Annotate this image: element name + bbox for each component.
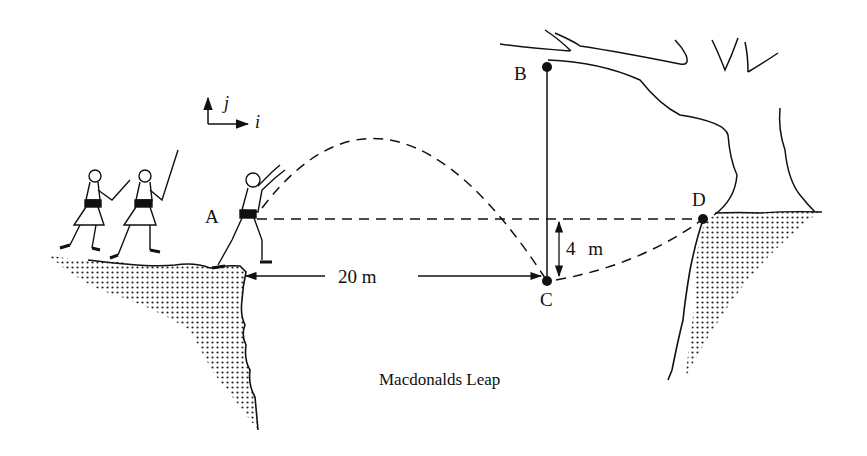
right-cliff [668,211,822,380]
figure-caption: Macdonalds Leap [379,370,500,389]
j-label: j [222,93,229,113]
trajectory-lines [257,138,705,280]
macdonalds-leap-diagram: j i 20 m 4 m [0,0,867,456]
point-c-label: C [540,289,553,310]
soldier-figure-1 [60,170,130,250]
unit-vector-axes: j i [208,93,260,132]
leaping-figure [212,165,285,268]
left-cliff [48,255,258,430]
soldier-figure-2 [110,150,178,258]
distance-20m-label: 20 m [338,266,377,287]
point-c-icon [542,276,552,286]
height-4m-label: 4 m [566,238,603,259]
point-d-label: D [692,189,706,210]
dimension-4m: 4 m [559,222,603,276]
point-b-label: B [514,63,527,84]
i-label: i [255,112,260,132]
highlander-figures [60,150,285,268]
point-d-icon [698,214,708,224]
point-a-label: A [205,206,219,227]
point-b-icon [542,62,552,72]
leap-trajectory [262,138,545,278]
points: B C D A [205,62,708,310]
dimension-20m: 20 m [246,266,541,287]
